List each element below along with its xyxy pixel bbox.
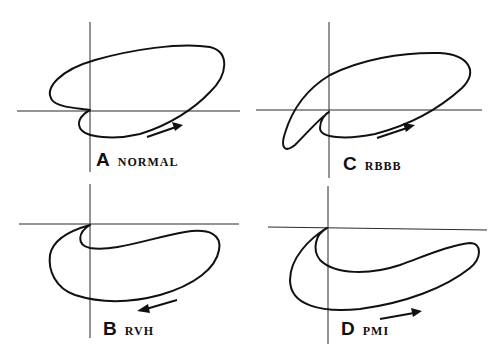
panel-d-letter: D: [341, 318, 355, 339]
panel-a-name: NORMAL: [118, 155, 179, 169]
panel-b-direction-arrow: [137, 300, 177, 313]
panel-b-letter: B: [103, 318, 117, 339]
panel-d-name: PMI: [363, 324, 389, 338]
panel-d-qrs-loop: [290, 228, 479, 310]
panel-b-rvh: [19, 184, 239, 338]
panel-a-qrs-loop: [50, 45, 224, 137]
panel-c-label: CRBBB: [343, 153, 401, 175]
panel-a-letter: A: [96, 149, 110, 170]
panel-c-direction-arrow: [377, 123, 415, 138]
panel-b-label: BRVH: [103, 318, 154, 340]
panel-c-name: RBBB: [365, 159, 402, 173]
panel-b-qrs-loop: [50, 225, 220, 301]
vectorcardiogram-figure: ANORMAL CRBBB BRVH DPMI: [0, 0, 503, 362]
panel-d-label: DPMI: [341, 318, 389, 340]
panel-d-horizontal-axis: [268, 227, 487, 230]
panel-a-label: ANORMAL: [96, 149, 178, 171]
panel-c-letter: C: [343, 153, 357, 174]
panel-b-name: RVH: [125, 324, 154, 338]
loops-canvas: [0, 0, 503, 362]
panel-c-qrs-loop: [283, 53, 470, 149]
